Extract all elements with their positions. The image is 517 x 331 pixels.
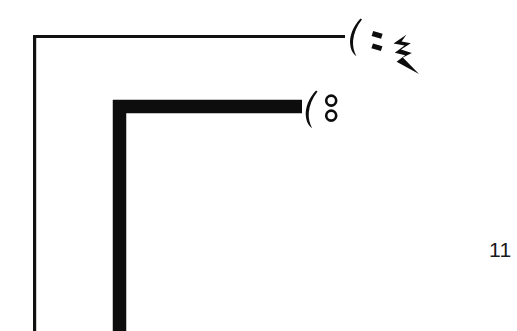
technical-drawing-canvas [0, 0, 517, 331]
annotation-upper-mark [350, 19, 419, 75]
page-number: 11 [489, 238, 512, 262]
colon-lower-dash-icon [371, 43, 382, 51]
thin-corner-line [33, 35, 345, 331]
circle-upper-icon [326, 96, 336, 106]
lightning-bolt-icon [394, 35, 420, 74]
thick-corner-line [113, 100, 302, 331]
open-paren-icon [350, 19, 362, 57]
open-paren-icon [306, 91, 318, 129]
circle-lower-icon [326, 111, 336, 121]
colon-upper-dash-icon [372, 31, 383, 39]
annotation-lower-mark [306, 91, 336, 129]
document-page: 11 [0, 0, 517, 331]
